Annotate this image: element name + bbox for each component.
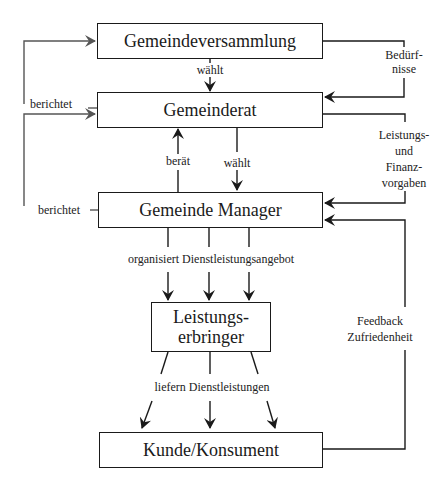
edge-label-advises: berät [164, 154, 192, 168]
node-gemeinderat: Gemeinderat [97, 92, 323, 128]
edge-label-feedback: Feedback Zufriedenheit [345, 313, 414, 345]
node-leistungserbringer: Leistungs- erbringer [151, 302, 271, 352]
node-gemeindeversammlung: Gemeindeversammlung [97, 23, 323, 59]
node-label: Leistungs- erbringer [173, 307, 249, 347]
edge-label-council-elects: wählt [222, 156, 253, 170]
node-label: Gemeinde Manager [139, 200, 281, 220]
edge-label-deliver: liefern Dienstleistungen [153, 380, 272, 394]
node-gemeinde-manager: Gemeinde Manager [98, 192, 323, 228]
edge-performance-finance [325, 190, 405, 203]
edge-council-reports-assembly [24, 41, 95, 104]
edge-needs [325, 78, 404, 97]
edge-label-assembly-elects: wählt [195, 63, 226, 77]
edge-label-needs: Bedürf- nisse [383, 48, 424, 76]
edge-label-council-reports: berichtet [28, 97, 74, 111]
edge-feedback [325, 220, 405, 307]
edge-label-manager-reports: berichtet [36, 203, 82, 217]
node-label: Gemeinderat [164, 100, 257, 120]
node-label: Gemeindeversammlung [124, 31, 296, 51]
edge-deliver-3 [267, 401, 275, 428]
edge-manager-reports-council [24, 114, 95, 206]
node-label: Kunde/Konsument [143, 440, 279, 460]
node-kunde-konsument: Kunde/Konsument [99, 432, 323, 468]
edge-label-organizes: organisiert Dienstleistungsangebot [126, 252, 296, 266]
edge-deliver-1 [142, 401, 152, 428]
edge-label-performance-finance: Leistungs- und Finanz- vorgaben [377, 127, 432, 191]
